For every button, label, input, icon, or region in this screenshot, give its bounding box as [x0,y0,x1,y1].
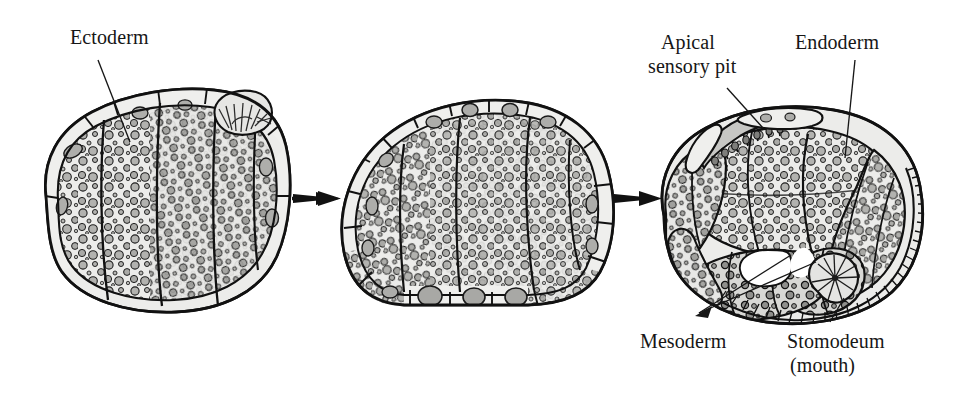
label-endoderm: Endoderm [795,30,879,54]
stage-1-blastula [40,85,300,325]
label-apical-sensory-pit-line2: sensory pit [648,54,736,78]
label-apical-sensory-pit-line1: Apical [661,30,715,54]
arrow-stage2-to-stage3 [614,191,662,206]
label-mesoderm: Mesoderm [640,329,726,353]
figure-canvas: Ectoderm Apical sensory pit Endoderm Mes… [0,0,961,408]
label-ectoderm: Ectoderm [70,25,149,49]
label-stomodeum-line1: Stomodeum [787,329,885,353]
stage-3-trochophore [662,107,931,324]
arrow-stage1-to-stage2 [292,191,341,206]
stage-2-gastrula [340,94,630,310]
label-stomodeum-line2: (mouth) [790,353,855,377]
